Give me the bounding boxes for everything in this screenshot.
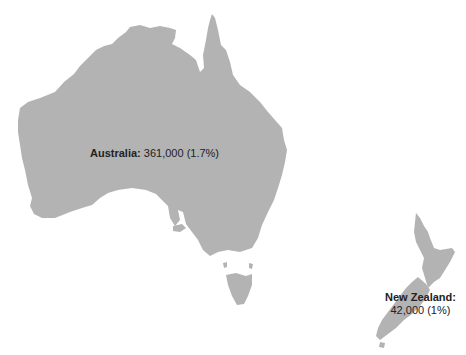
region-tasmania[interactable] [226,273,252,305]
australia-value: 361,000 (1.7%) [144,147,219,159]
australia-name: Australia: [90,147,141,159]
region-new-zealand-north[interactable] [414,213,455,288]
region-australia[interactable] [18,14,287,256]
new-zealand-name: New Zealand: [385,291,456,303]
region-stewart-island [379,342,385,348]
new-zealand-value: 42,000 (1%) [390,304,450,316]
australia-label: Australia: 361,000 (1.7%) [90,147,219,160]
new-zealand-label: New Zealand: 42,000 (1%) [385,291,456,317]
region-bass-island-2 [249,263,253,269]
region-bass-island-1 [223,262,227,268]
